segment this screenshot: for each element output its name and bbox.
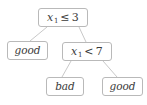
edge-split2-to-bad	[62, 61, 71, 77]
edge-root-to-split2	[79, 27, 86, 42]
tree-leaf-good-left: good	[7, 41, 48, 60]
tree-node-split2: x1<7	[62, 42, 112, 61]
tree-leaf-good-right: good	[102, 77, 143, 96]
decision-tree-figure: x1≤3 good x1<7 bad good	[0, 0, 147, 105]
tree-node-root-label: x1≤3	[47, 12, 79, 23]
threshold-value: 3	[72, 11, 79, 24]
tree-leaf-good-left-label: good	[14, 45, 40, 56]
tree-leaf-good-right-label: good	[109, 81, 135, 92]
comparison-operator: ≤	[60, 11, 70, 24]
comparison-operator: <	[84, 45, 94, 58]
tree-leaf-bad-label: bad	[55, 81, 75, 92]
edge-split2-to-good-right	[103, 61, 117, 77]
tree-node-split2-label: x1<7	[71, 46, 103, 57]
variable-x: x	[71, 45, 78, 58]
edge-root-to-good-left	[30, 27, 47, 41]
variable-subscript: 1	[78, 51, 83, 59]
tree-leaf-bad: bad	[46, 77, 84, 96]
tree-node-root: x1≤3	[38, 8, 88, 27]
variable-subscript: 1	[54, 17, 59, 25]
variable-x: x	[47, 11, 54, 24]
threshold-value: 7	[96, 45, 103, 58]
